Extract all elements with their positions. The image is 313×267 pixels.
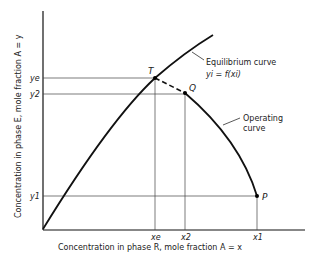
tick-xe: xe — [150, 233, 161, 242]
tick-y2: y2 — [29, 90, 40, 99]
point-Q — [183, 91, 187, 95]
label-P: P — [262, 192, 268, 202]
operating-label-2: curve — [243, 124, 265, 133]
tick-x2: x2 — [180, 233, 191, 242]
equilibrium-curve — [43, 35, 213, 229]
label-T: T — [148, 66, 155, 76]
tick-x1: x1 — [252, 233, 263, 242]
y-axis-label: Concentration in phase E, mole fraction … — [14, 34, 23, 218]
point-P — [255, 194, 259, 198]
equilibrium-label: Equilibrium curve — [206, 58, 276, 67]
equilibrium-equation: yi = f(xi) — [205, 70, 241, 79]
tie-line-dashed — [155, 78, 185, 93]
operating-label: Operating — [243, 114, 283, 123]
tick-y1: y1 — [29, 192, 40, 201]
operating-pointer — [223, 118, 240, 125]
point-T — [153, 76, 157, 80]
label-Q: Q — [189, 83, 196, 93]
equilibrium-pointer — [192, 52, 204, 60]
operating-curve — [185, 93, 257, 196]
diagram-canvas: T Q P ye y2 y1 xe x2 x1 Equilibrium curv… — [0, 0, 313, 267]
tick-ye: ye — [29, 74, 40, 83]
x-axis-label: Concentration in phase R, mole fraction … — [58, 243, 242, 252]
